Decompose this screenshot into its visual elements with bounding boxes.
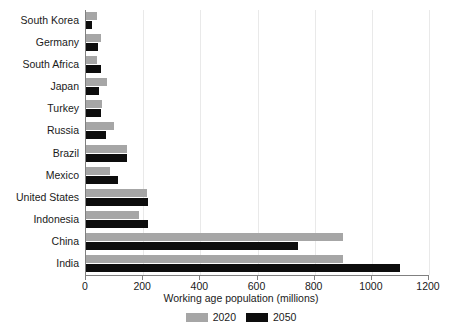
y-axis-label-india: India <box>56 258 79 269</box>
y-axis-label-united-states: United States <box>16 192 79 203</box>
x-tick-label-600: 600 <box>248 280 266 292</box>
bar-indonesia-2020 <box>86 211 139 219</box>
y-axis-label-germany: Germany <box>36 37 79 48</box>
bar-russia-2050 <box>86 131 106 139</box>
bar-mexico-2020 <box>86 167 110 175</box>
bar-group <box>86 122 429 144</box>
bar-south-korea-2050 <box>86 21 92 29</box>
chart-legend: 20202050 <box>0 311 450 323</box>
y-axis-label-turkey: Turkey <box>47 103 79 114</box>
bar-china-2020 <box>86 233 343 241</box>
y-axis-label-south-africa: South Africa <box>22 59 79 70</box>
bar-group <box>86 233 429 255</box>
bar-south-africa-2020 <box>86 56 97 64</box>
bar-group <box>86 211 429 233</box>
bar-group <box>86 34 429 56</box>
plot-area <box>85 10 429 276</box>
bar-mexico-2050 <box>86 176 118 184</box>
x-tick-label-1000: 1000 <box>359 280 382 292</box>
bar-turkey-2050 <box>86 109 101 117</box>
bar-group <box>86 145 429 167</box>
gridline <box>429 10 430 275</box>
bar-indonesia-2050 <box>86 220 148 228</box>
bar-group <box>86 78 429 100</box>
y-axis-label-russia: Russia <box>47 125 79 136</box>
legend-label-2050: 2050 <box>273 311 296 323</box>
y-axis-label-japan: Japan <box>50 81 79 92</box>
legend-item-2050[interactable]: 2050 <box>246 311 296 323</box>
bar-group <box>86 255 429 277</box>
bar-group <box>86 100 429 122</box>
y-axis-label-china: China <box>52 236 79 247</box>
legend-item-2020[interactable]: 2020 <box>186 311 236 323</box>
legend-swatch-2020 <box>186 313 208 322</box>
bar-group <box>86 12 429 34</box>
y-axis-label-south-korea: South Korea <box>21 15 79 26</box>
legend-label-2020: 2020 <box>213 311 236 323</box>
bar-india-2050 <box>86 264 400 272</box>
bar-group <box>86 56 429 78</box>
x-axis-ticks: 020040060080010001200 <box>85 276 428 292</box>
x-axis-title: Working age population (millions) <box>0 292 450 304</box>
chart-page: South KoreaGermanySouth AfricaJapanTurke… <box>0 0 450 336</box>
bar-china-2050 <box>86 242 298 250</box>
bar-germany-2020 <box>86 34 101 42</box>
bar-group <box>86 167 429 189</box>
bar-turkey-2020 <box>86 100 102 108</box>
bar-germany-2050 <box>86 43 98 51</box>
bar-south-africa-2050 <box>86 65 101 73</box>
x-tick-label-800: 800 <box>305 280 323 292</box>
bar-japan-2050 <box>86 87 99 95</box>
x-tick-label-1200: 1200 <box>416 280 439 292</box>
y-axis-label-indonesia: Indonesia <box>33 214 79 225</box>
bar-group <box>86 189 429 211</box>
bar-united-states-2050 <box>86 198 148 206</box>
bar-brazil-2050 <box>86 154 127 162</box>
bar-brazil-2020 <box>86 145 127 153</box>
x-tick-label-0: 0 <box>82 280 88 292</box>
bar-russia-2020 <box>86 122 114 130</box>
bar-south-korea-2020 <box>86 12 97 20</box>
x-tick-label-200: 200 <box>133 280 151 292</box>
legend-swatch-2050 <box>246 313 268 322</box>
x-tick-label-400: 400 <box>191 280 209 292</box>
x-axis-title-text: Working age population (millions) <box>131 292 318 304</box>
y-axis-label-brazil: Brazil <box>53 148 79 159</box>
bar-united-states-2020 <box>86 189 147 197</box>
y-axis-labels: South KoreaGermanySouth AfricaJapanTurke… <box>0 10 83 275</box>
bar-japan-2020 <box>86 78 107 86</box>
y-axis-label-mexico: Mexico <box>46 170 79 181</box>
bar-india-2020 <box>86 255 343 263</box>
